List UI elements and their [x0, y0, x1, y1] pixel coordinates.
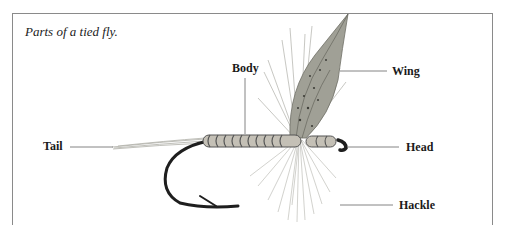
hackle-fibers	[250, 140, 336, 222]
tied-fly-illustration	[0, 0, 509, 225]
head-thread	[306, 136, 336, 147]
label-tail: Tail	[43, 139, 63, 154]
label-body: Body	[232, 61, 259, 76]
label-hackle: Hackle	[399, 198, 435, 213]
label-wing: Wing	[392, 64, 420, 79]
body-thread	[203, 135, 336, 147]
wing	[290, 14, 348, 138]
hook	[165, 140, 346, 207]
label-head: Head	[406, 140, 433, 155]
